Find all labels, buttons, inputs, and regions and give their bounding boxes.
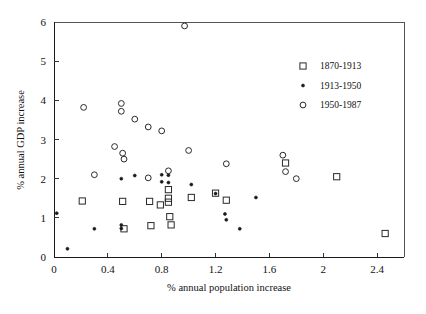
data-point [160,180,163,183]
legend-label: 1870-1913 [320,61,361,71]
y-tick-label: 5 [41,55,47,67]
y-tick-label: 2 [41,173,47,185]
x-tick-label: 2.4 [370,263,384,275]
data-point [55,212,58,215]
x-tick-label: 1.2 [209,263,223,275]
data-point [214,192,217,195]
data-point [66,247,69,250]
data-point [120,223,123,226]
data-point [120,177,123,180]
x-tick-label: 1.6 [263,263,277,275]
scatter-plot-figure: 00.40.81.21.622.40123456 % annual popula… [0,0,426,314]
data-point [93,227,96,230]
data-point [133,174,136,177]
legend-marker [302,84,305,87]
data-point [167,181,170,184]
data-point [238,227,241,230]
y-tick-label: 6 [41,16,47,28]
y-axis-title: % annual GDP increase [15,90,26,190]
x-tick-label: 0 [51,263,57,275]
x-axis-title: % annual population increase [167,282,291,293]
y-tick-label: 1 [41,212,47,224]
data-point [190,183,193,186]
data-point [160,173,163,176]
data-point [223,212,226,215]
legend-label: 1950-1987 [320,100,361,110]
data-point [225,218,228,221]
x-tick-label: 0.4 [101,263,115,275]
y-tick-label: 0 [41,251,47,263]
x-tick-label: 2 [320,263,326,275]
data-point [254,196,257,199]
legend-label: 1913-1950 [320,81,361,91]
y-tick-label: 4 [41,94,47,106]
x-tick-label: 0.8 [155,263,169,275]
y-tick-label: 3 [41,134,47,146]
plot-canvas: 00.40.81.21.622.40123456 % annual popula… [0,0,426,314]
data-point [120,227,123,230]
